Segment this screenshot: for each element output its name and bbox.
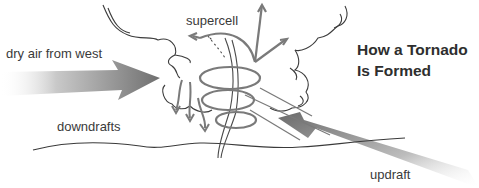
inflow-lines	[245, 88, 330, 140]
title-line-2: Is Formed	[357, 60, 468, 81]
diagram-title: How a Tornado Is Formed	[357, 39, 468, 81]
downdraft-arrows	[172, 80, 209, 131]
tornado-diagram: supercell dry air from west downdrafts u…	[0, 0, 479, 188]
label-supercell: supercell	[186, 13, 238, 28]
label-updraft: updraft	[370, 167, 410, 182]
tornado-funnel	[208, 36, 238, 158]
label-dry-air-from-west: dry air from west	[6, 46, 102, 61]
dry-air-arrow	[0, 60, 160, 100]
title-line-1: How a Tornado	[357, 39, 468, 60]
tornado-illustration	[0, 0, 479, 188]
label-downdrafts: downdrafts	[57, 119, 121, 134]
